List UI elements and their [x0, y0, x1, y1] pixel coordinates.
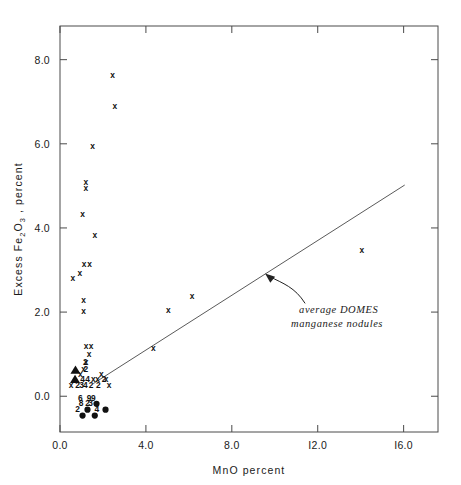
data-point-overlap-count: 2 [89, 380, 94, 390]
data-point-cross: x [151, 343, 156, 353]
annotation-arrowhead [265, 273, 275, 282]
scatter-plot-figure: 0.04.08.0I2.0I6.00.02.04.06.08.0MnO perc… [0, 0, 461, 485]
data-point-cross: x [112, 101, 117, 111]
y-tick-label: 2.0 [35, 306, 51, 318]
plot-frame [60, 26, 438, 432]
data-point-cross: x [110, 70, 115, 80]
data-point-cross: x [71, 273, 76, 283]
x-tick-label: 8.0 [224, 439, 240, 451]
data-point-cross: x [77, 268, 82, 278]
data-point-overlap-count: 2 [75, 404, 80, 414]
data-point-cross: x [90, 141, 95, 151]
data-point-overlap-count: 4 [83, 380, 88, 390]
x-tick-label: I2.0 [308, 439, 327, 451]
data-point-cross: x [80, 209, 85, 219]
plot-canvas: 0.04.08.0I2.0I6.00.02.04.06.08.0MnO perc… [0, 0, 461, 485]
data-point-cross: x [87, 259, 92, 269]
data-point-overlap-count: 2 [96, 380, 101, 390]
data-point-circle [102, 407, 108, 413]
data-point-cross: x [166, 305, 171, 315]
data-point-overlap-count: 4 [95, 404, 100, 414]
data-point-cross: x [107, 380, 112, 390]
annotation-line-1: average DOMES [299, 304, 378, 315]
annotation-line-2: manganese nodules [291, 318, 383, 329]
y-tick-label: 4.0 [35, 222, 51, 234]
data-point-overlap-count: 3 [88, 398, 93, 408]
data-point-overlap-count: 2 [102, 374, 107, 384]
data-point-cross: x [82, 259, 87, 269]
data-point-cross: x [92, 230, 97, 240]
domes-average-trendline [93, 185, 404, 384]
x-tick-label: I6.0 [394, 439, 413, 451]
x-axis-title: MnO percent [213, 464, 286, 476]
data-point-cross: x [190, 291, 195, 301]
y-tick-label: 0.0 [35, 390, 51, 402]
data-point-cross: x [83, 183, 88, 193]
x-tick-label: 0.0 [52, 439, 68, 451]
data-point-cross: x [81, 306, 86, 316]
y-tick-label: 6.0 [35, 138, 51, 150]
data-point-cross: x [81, 295, 86, 305]
x-tick-label: 4.0 [138, 439, 154, 451]
data-point-circle [79, 412, 85, 418]
data-point-cross: x [359, 245, 364, 255]
y-axis-title: Excess Fe2O3 , percent [12, 162, 27, 295]
y-tick-label: 8.0 [35, 54, 51, 66]
annotation-leader-line [269, 276, 305, 303]
